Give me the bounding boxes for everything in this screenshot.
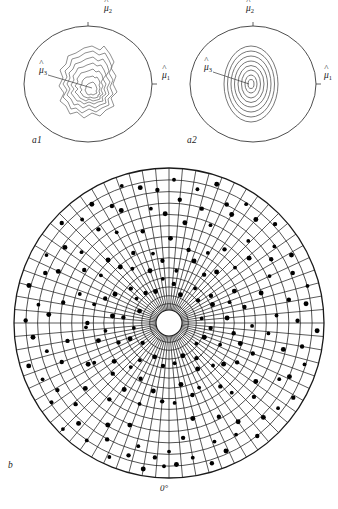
panel-b-data-point [160, 399, 164, 403]
panel-b-data-point [225, 202, 229, 206]
panel-b-data-point [252, 395, 256, 399]
panel-b-data-point [287, 374, 292, 379]
panel-b-data-point [222, 247, 226, 251]
panel-b-data-point [173, 401, 177, 405]
panel-b-data-point [115, 230, 119, 234]
panel-b-data-point [181, 436, 185, 440]
panel-b-data-point [268, 274, 272, 278]
panel-a2-label-mu-hat-1: μ1 [324, 71, 332, 81]
panel-b-data-point [230, 391, 234, 395]
panel-b-data-point [63, 245, 68, 250]
panel-b-data-point [78, 292, 82, 296]
panel-b-data-point [80, 250, 84, 254]
panel-b-data-point [129, 286, 133, 290]
panel-b-data-point [287, 298, 291, 302]
mu-subscript: 3 [209, 66, 212, 73]
panel-b-data-point [295, 319, 299, 323]
panel-b-data-point [60, 360, 64, 364]
panel-b-data-point [105, 422, 110, 427]
panel-b-data-point [167, 450, 171, 454]
panel-b-data-point [195, 366, 200, 371]
panel-b-grid-spoke-41 [103, 335, 163, 464]
panel-b-data-point [26, 283, 31, 288]
panel-b-data-point [218, 343, 222, 347]
panel-b: b 0° [0, 166, 338, 509]
panel-b-tag: b [8, 461, 13, 471]
panel-b-data-point [89, 202, 94, 207]
panel-a2-contour-group [224, 46, 278, 122]
panel-b-data-point [190, 416, 195, 421]
panel-b-data-point [214, 269, 219, 274]
panel-b-data-point [162, 464, 166, 468]
panel-b-data-point [242, 305, 246, 309]
panel-b-data-point [233, 266, 237, 270]
panel-b-data-point [202, 335, 207, 340]
panel-b-data-point [194, 342, 198, 346]
panel-b-data-point [110, 314, 115, 319]
panel-b-data-point [41, 377, 45, 381]
panel-b-data-point [50, 400, 54, 404]
panel-b-data-point [84, 325, 88, 329]
panel-b-data-point [209, 294, 213, 298]
panel-b-grid-spoke-10 [179, 223, 288, 314]
panel-a1: μ2 μ1 μ3 a1 [12, 6, 177, 156]
panel-b-data-point [267, 332, 271, 336]
panel-b-data-point [26, 363, 31, 368]
panel-b-grid-spoke-39 [129, 336, 166, 473]
panel-b-data-point [122, 387, 127, 392]
panel-b-data-point [155, 188, 159, 192]
panel-b-data-point [178, 292, 183, 297]
panel-b-data-point [127, 423, 132, 428]
contour-level-6 [242, 70, 261, 98]
mu-subscript: 3 [44, 69, 47, 76]
panel-b-grid-spoke-62 [50, 223, 159, 314]
panel-b-data-point [255, 434, 259, 438]
panel-b-data-point [225, 315, 230, 320]
panel-b-data-point [82, 268, 86, 272]
panel-b-grid-spoke-33 [172, 336, 209, 473]
panel-a1-contour-group [59, 46, 117, 118]
panel-b-data-point [229, 212, 234, 217]
panel-b-data-point [269, 257, 273, 261]
panel-b-data-point [61, 427, 65, 431]
panel-b-data-point [56, 269, 61, 274]
mu-subscript: 1 [167, 74, 170, 81]
panel-b-zero-degrees-label: 0° [160, 484, 168, 493]
panel-a1-tag: a1 [32, 136, 42, 146]
panel-b-data-point [163, 211, 168, 216]
panel-b-data-point [104, 329, 108, 333]
panel-b-data-point [234, 433, 238, 437]
panel-b-data-point [231, 331, 235, 335]
panel-b-data-point [209, 223, 213, 227]
panel-b-data-point [106, 257, 111, 262]
panel-b-grid-spoke-69 [129, 173, 166, 310]
panel-b-data-point [103, 296, 107, 300]
panel-b-data-point [178, 198, 182, 202]
panel-b-data-point [246, 239, 250, 243]
panel-b-center-hub [156, 310, 182, 336]
panel-b-data-point [200, 207, 204, 211]
panel-b-data-point [99, 273, 103, 277]
panel-b-data-point [107, 455, 111, 459]
panel-b-data-point [152, 354, 157, 359]
panel-b-data-point [213, 440, 217, 444]
panel-b-data-point [45, 349, 49, 353]
panel-b-data-point [43, 271, 47, 275]
panel-b-data-point [202, 272, 206, 276]
panel-b-data-point [96, 227, 100, 231]
panel-b-data-point [138, 358, 142, 362]
panel-b-data-point [291, 271, 295, 275]
panel-b-data-point [261, 415, 266, 420]
panel-b-data-point [118, 265, 123, 270]
panel-b-data-point [160, 259, 164, 263]
panel-b-data-point [304, 301, 309, 306]
panel-b-data-point [76, 421, 81, 426]
panel-b-data-point [247, 256, 252, 261]
panel-b-data-point [128, 336, 133, 341]
panel-b-data-point [291, 396, 295, 400]
panel-b-data-point [92, 361, 96, 365]
panel-a2-canvas [183, 6, 338, 156]
panel-b-data-point [131, 267, 135, 271]
panel-b-grid-spoke-15 [182, 283, 319, 320]
panel-b-data-point [61, 300, 65, 304]
